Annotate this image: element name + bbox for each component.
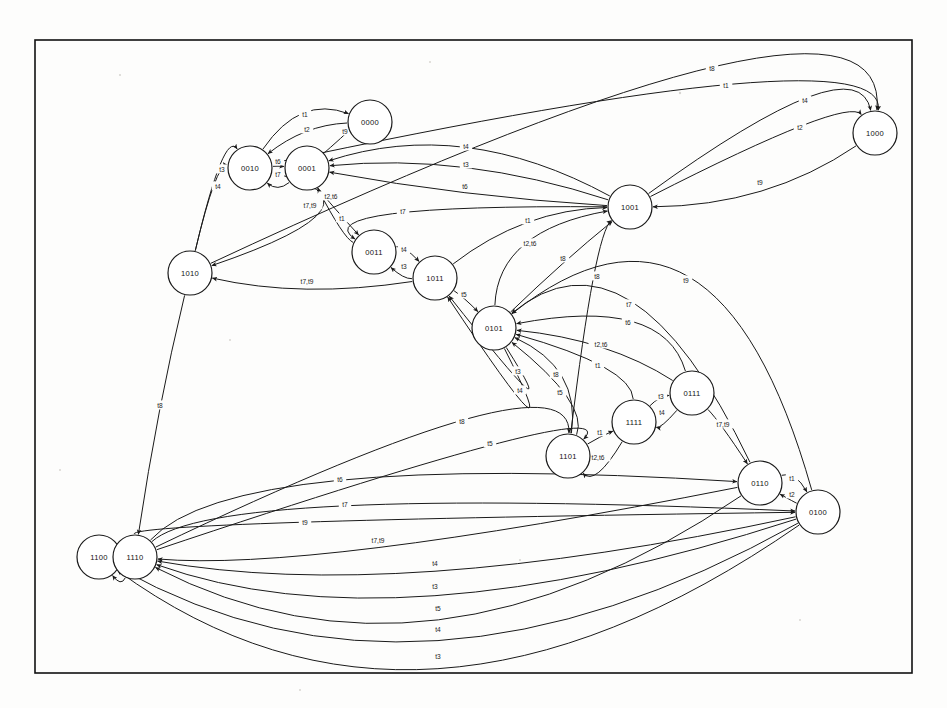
state-label: 1000 — [866, 129, 884, 138]
state-node-0110[interactable]: 0110 — [738, 461, 782, 505]
edge-label: t7,t9 — [304, 202, 317, 209]
edge-label: t4 — [215, 183, 221, 190]
edge-label: t4 — [659, 409, 665, 416]
state-label: 1101 — [559, 452, 577, 461]
state-node-0000[interactable]: 0000 — [348, 100, 392, 144]
transition-edge — [571, 221, 612, 434]
state-node-1000[interactable]: 1000 — [853, 111, 897, 155]
edge-label: t3 — [219, 166, 225, 173]
diagram-frame — [35, 40, 912, 673]
edge-label: t6 — [625, 319, 631, 326]
state-node-0101[interactable]: 0101 — [472, 306, 516, 350]
transition-edge — [157, 428, 588, 550]
edge-label: t7,t9 — [301, 278, 314, 285]
state-label: 1100 — [90, 553, 108, 562]
edge-label: t3 — [515, 368, 521, 375]
edge-label: t2,t6 — [595, 341, 608, 348]
edge-label: t1 — [595, 362, 601, 369]
edge-label: t2,t6 — [325, 193, 338, 200]
edge-label: t4 — [517, 387, 523, 394]
state-node-0001[interactable]: 0001 — [285, 146, 329, 190]
state-label: 0011 — [365, 248, 383, 257]
transition-edge — [158, 517, 796, 575]
transition-edge — [152, 503, 795, 541]
state-node-1001[interactable]: 1001 — [608, 185, 652, 229]
edge-label: t7 — [342, 501, 348, 508]
node-layer: 0000000100100011010001010110011110001001… — [77, 100, 897, 579]
edge-layer — [112, 54, 878, 670]
edge-label: t7 — [275, 171, 281, 178]
edge-label: t3 — [658, 393, 664, 400]
state-label: 1001 — [621, 203, 639, 212]
edge-label: t1 — [339, 215, 345, 222]
edge-label: t8 — [560, 255, 566, 262]
edge-label: t3 — [463, 161, 469, 168]
state-label: 0001 — [298, 164, 316, 173]
transition-edge — [118, 525, 800, 670]
edge-label: t8 — [157, 402, 163, 409]
state-node-1111[interactable]: 1111 — [612, 400, 656, 444]
edge-label: t5 — [557, 389, 563, 396]
state-node-1110[interactable]: 1110 — [113, 535, 157, 579]
edge-label: t6 — [337, 476, 343, 483]
edge-label: t7 — [400, 208, 406, 215]
transition-edge — [708, 410, 747, 464]
transition-edge — [195, 165, 227, 251]
edge-label: t8 — [459, 418, 465, 425]
transition-edge — [653, 146, 856, 207]
edge-label: t7,t9 — [372, 537, 385, 544]
edge-label: t8 — [709, 65, 715, 72]
state-label: 0010 — [241, 164, 259, 173]
edge-label: t5 — [461, 291, 467, 298]
edge-label: t8 — [594, 273, 600, 280]
edge-label: t2 — [304, 126, 310, 133]
edge-label: t4 — [432, 560, 438, 567]
diagram-canvas: t8t1t4t2t1t2t9t6t7t3t4t4t3t2,t6t6t7,t9t1… — [0, 0, 947, 708]
edge-label: t3 — [401, 263, 407, 270]
edge-label: t1 — [789, 475, 795, 482]
edge-label: t2 — [797, 124, 803, 131]
state-label: 1110 — [127, 553, 144, 562]
state-label: 0101 — [485, 324, 503, 333]
state-transition-diagram: t8t1t4t2t1t2t9t6t7t3t4t4t3t2,t6t6t7,t9t1… — [0, 0, 947, 708]
transition-edge — [517, 330, 673, 380]
edge-label: t1 — [302, 111, 308, 118]
edge-label: t6 — [275, 158, 281, 165]
state-label: 0111 — [684, 389, 701, 398]
edge-label: t1 — [723, 82, 729, 89]
edge-label: t5 — [487, 440, 493, 447]
edge-label: t6 — [462, 183, 468, 190]
edge-label: t2 — [789, 491, 795, 498]
edge-label: t4 — [463, 143, 469, 150]
transition-edge — [267, 183, 289, 188]
edge-label: t4 — [401, 246, 407, 253]
edge-label: t1 — [525, 217, 531, 224]
edge-label: t8 — [553, 371, 559, 378]
state-node-0111[interactable]: 0111 — [670, 371, 714, 415]
state-label: 1010 — [181, 269, 199, 278]
state-node-0010[interactable]: 0010 — [228, 146, 272, 190]
edge-label: t3 — [435, 653, 441, 660]
state-label: 0000 — [361, 118, 379, 127]
state-node-0100[interactable]: 0100 — [796, 490, 840, 534]
edge-label: t7 — [626, 301, 632, 308]
state-node-1101[interactable]: 1101 — [546, 434, 590, 478]
state-node-0011[interactable]: 0011 — [352, 230, 396, 274]
edge-label: t7,t9 — [717, 421, 730, 428]
edge-label: t4 — [802, 97, 808, 104]
transition-edge — [113, 576, 126, 582]
edge-label: t5 — [435, 605, 441, 612]
edge-label: t2,t6 — [592, 454, 605, 461]
state-node-1011[interactable]: 1011 — [413, 256, 457, 300]
transition-edge — [156, 407, 569, 547]
edge-label: t9 — [683, 277, 689, 284]
state-label: 1111 — [626, 418, 642, 427]
transition-edge — [151, 473, 738, 540]
state-node-1010[interactable]: 1010 — [168, 251, 212, 295]
edge-label: t2,t6 — [524, 240, 537, 247]
state-label: 0100 — [809, 508, 827, 517]
edge-label: t4 — [435, 626, 441, 633]
edge-label: t9 — [342, 128, 348, 135]
edge-label: t3 — [432, 583, 438, 590]
state-label: 0110 — [751, 479, 769, 488]
